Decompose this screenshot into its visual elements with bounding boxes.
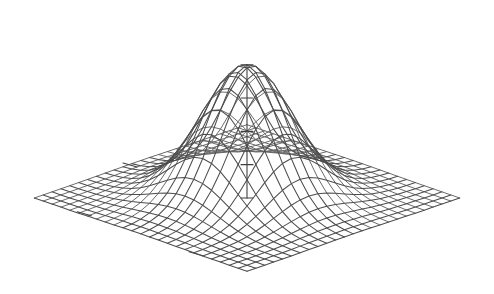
wireframe-surface-canvas <box>0 0 494 294</box>
surface-plot-figure <box>0 0 494 294</box>
mesh-strand <box>70 186 283 259</box>
mesh-strand <box>238 195 451 268</box>
mesh-strand <box>34 198 247 271</box>
mesh-strand <box>150 66 363 231</box>
mesh-strand <box>212 186 425 259</box>
mesh-strand <box>247 198 460 271</box>
mesh-strand <box>132 66 345 231</box>
mesh-strand <box>43 195 256 268</box>
